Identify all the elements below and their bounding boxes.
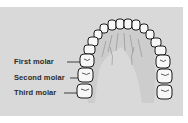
label-third-molar: Third molar (14, 88, 56, 97)
label-first-molar: First molar (14, 57, 54, 66)
diagram-panel: First molar Second molar Third molar (0, 7, 183, 116)
second-molar-tooth (78, 68, 93, 82)
label-second-molar: Second molar (14, 73, 65, 82)
third-molar-tooth (77, 84, 92, 98)
